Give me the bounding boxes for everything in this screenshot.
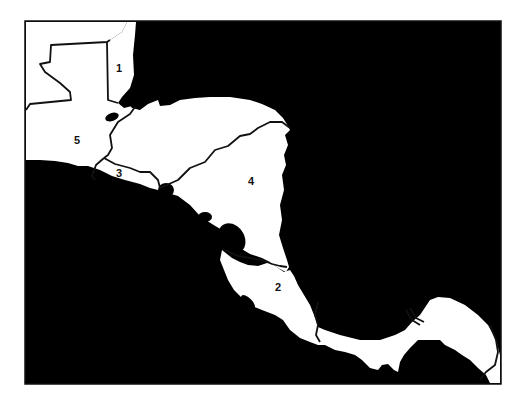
lake-managua <box>198 212 212 222</box>
region-label-costa-rica: 2 <box>275 281 281 293</box>
region-label-el-salvador: 3 <box>116 167 122 179</box>
region-label-guatemala: 5 <box>74 134 80 146</box>
central-america-map: 1 2 3 4 5 <box>0 0 520 401</box>
region-label-nicaragua: 4 <box>248 175 255 187</box>
region-label-belize: 1 <box>116 62 122 74</box>
